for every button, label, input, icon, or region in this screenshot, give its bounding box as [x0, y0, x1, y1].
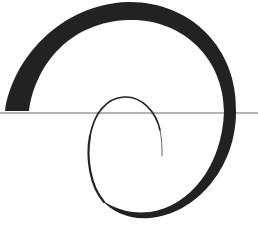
spiral-inner-loop-upper	[90, 97, 160, 136]
spiral-diagram	[0, 0, 258, 239]
spiral-inner-loop	[89, 136, 104, 202]
spiral-inner-tail	[160, 130, 162, 156]
spiral-lower-arc	[102, 112, 236, 218]
spiral-outer-arc	[5, 2, 236, 112]
